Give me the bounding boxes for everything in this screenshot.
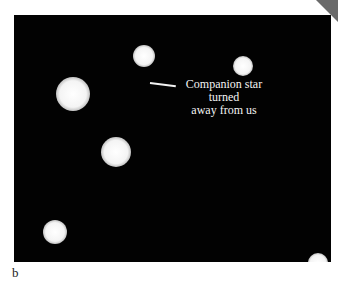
star-4 [101,137,131,167]
star-5 [43,220,67,244]
star-6 [308,253,328,262]
star-2 [233,56,253,76]
star-1 [133,45,155,67]
caption-line-3: away from us [174,104,274,117]
annotation-caption: Companion star turned away from us [174,78,274,117]
star-field-photo: Companion star turned away from us [14,15,331,262]
star-3 [56,77,90,111]
annotation-pointer-line [150,82,176,87]
panel-label: b [12,265,19,281]
